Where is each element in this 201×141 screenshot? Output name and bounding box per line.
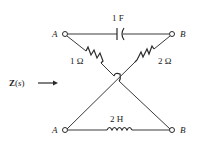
resistor-icon bbox=[135, 46, 154, 62]
impedance-label: Z(s) bbox=[9, 78, 25, 88]
terminal-label: B bbox=[180, 125, 186, 135]
terminal-node-icon bbox=[63, 32, 68, 37]
terminal-label: A bbox=[51, 125, 58, 135]
resistor-1-label: 1 Ω bbox=[70, 56, 84, 66]
top-branch: 1 F bbox=[68, 13, 169, 40]
inductor-label: 2 H bbox=[110, 114, 124, 124]
terminal-label: A bbox=[51, 29, 58, 39]
impedance-indicator: Z(s) bbox=[9, 78, 58, 88]
capacitor-label: 1 F bbox=[112, 13, 124, 23]
terminal-bottom-right: B bbox=[170, 125, 187, 135]
arrow-right-icon bbox=[38, 81, 58, 86]
terminal-node-icon bbox=[63, 128, 68, 133]
resistor-icon bbox=[86, 47, 103, 63]
terminal-bottom-left: A bbox=[51, 125, 68, 135]
terminal-label: B bbox=[180, 29, 186, 39]
terminal-top-left: A bbox=[51, 29, 68, 39]
inductor-icon bbox=[107, 128, 132, 131]
terminal-top-right: B bbox=[170, 29, 187, 39]
terminal-node-icon bbox=[170, 32, 175, 37]
resistor-2-label: 2 Ω bbox=[158, 56, 172, 66]
lattice-circuit-diagram: 1 F 1 Ω 2 Ω 2 H A B bbox=[0, 0, 201, 141]
terminal-node-icon bbox=[170, 128, 175, 133]
bottom-branch: 2 H bbox=[68, 114, 169, 130]
capacitor-icon bbox=[117, 28, 124, 40]
